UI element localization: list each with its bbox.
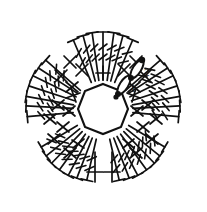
start-dot-2 xyxy=(128,75,134,81)
start-dot-top xyxy=(139,57,145,63)
crochet-chart-svg: 1 2 xyxy=(0,0,207,212)
diagram-canvas: 1 2 xyxy=(0,0,207,212)
start-label-1: 1 xyxy=(130,82,136,94)
start-label-2: 2 xyxy=(144,66,150,78)
ring-join-dot xyxy=(113,94,118,99)
